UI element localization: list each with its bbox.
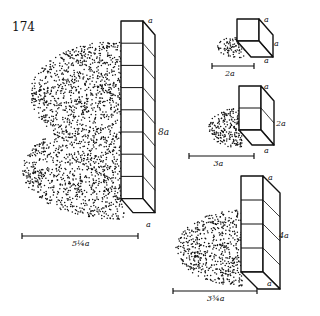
stipple-dot	[119, 92, 121, 94]
stipple-dot	[66, 64, 68, 66]
stipple-dot	[78, 129, 80, 131]
stipple-dot	[82, 193, 84, 195]
stipple-dot	[52, 160, 54, 162]
stipple-dot	[105, 211, 107, 213]
stipple-dot	[22, 170, 24, 172]
stipple-dot	[106, 188, 108, 190]
stipple-dot	[97, 75, 99, 77]
stipple-dot	[220, 48, 222, 50]
stipple-dot	[212, 240, 214, 242]
stipple-dot	[98, 183, 100, 185]
stipple-dot	[29, 177, 31, 179]
stipple-dot	[90, 69, 92, 71]
stipple-dot	[119, 42, 121, 44]
stipple-dot	[66, 147, 68, 149]
stipple-dot	[65, 189, 67, 191]
stipple-dot	[80, 179, 82, 181]
stipple-dot	[223, 246, 225, 248]
stipple-dot	[67, 118, 69, 120]
stipple-dot	[60, 164, 62, 166]
stipple-dot	[179, 240, 181, 242]
stipple-dot	[197, 255, 199, 256]
stipple-dot	[57, 112, 59, 114]
stipple-dot	[222, 121, 224, 123]
stipple-dot	[80, 62, 82, 64]
stipple-dot	[236, 224, 238, 226]
stipple-dot	[209, 215, 211, 217]
stipple-dot	[84, 146, 86, 148]
stipple-dot	[111, 98, 113, 100]
stipple-dot	[101, 60, 103, 62]
stipple-dot	[217, 47, 219, 49]
stipple-dot	[224, 50, 226, 52]
stipple-dot	[230, 122, 232, 124]
stipple-dot	[69, 122, 71, 124]
stipple-dot	[96, 56, 98, 58]
stipple-dot	[229, 137, 231, 139]
stipple-dot	[84, 46, 86, 48]
stipple-dot	[221, 232, 223, 234]
stipple-dot	[90, 55, 92, 57]
stipple-dot	[217, 114, 219, 116]
stipple-dot	[82, 64, 84, 66]
stipple-dot	[104, 101, 106, 103]
stipple-dot	[222, 228, 224, 230]
stipple-dot	[98, 209, 100, 211]
stipple-dot	[104, 137, 106, 139]
stipple-dot	[220, 134, 222, 136]
stipple-dot	[79, 147, 81, 149]
stipple-dot	[115, 74, 117, 76]
stipple-dot	[27, 172, 29, 174]
stipple-dot	[67, 121, 69, 123]
stipple-dot	[214, 254, 216, 256]
stipple-dot	[216, 216, 218, 218]
stipple-dot	[100, 130, 102, 132]
stipple-dot	[73, 70, 75, 72]
stipple-dot	[79, 207, 81, 209]
stipple-dot	[236, 248, 238, 250]
stipple-dot	[111, 69, 113, 71]
stipple-dot	[58, 127, 60, 128]
stipple-dot	[207, 278, 209, 280]
stipple-dot	[86, 101, 88, 103]
stipple-dot	[50, 100, 52, 102]
stipple-dot	[217, 223, 219, 225]
stipple-dot	[53, 187, 55, 189]
stipple-dot	[72, 168, 74, 170]
stipple-dot	[224, 251, 226, 253]
stipple-dot	[75, 178, 77, 180]
stipple-dot	[71, 80, 73, 82]
stipple-dot	[228, 258, 230, 260]
stipple-dot	[81, 191, 83, 193]
stipple-dot	[71, 162, 73, 164]
stipple-dot	[114, 95, 116, 97]
stipple-dot	[218, 249, 220, 251]
stipple-dot	[57, 193, 59, 195]
stipple-dot	[97, 211, 99, 213]
stipple-dot	[76, 122, 78, 124]
stipple-dot	[53, 162, 55, 164]
stipple-dot	[215, 214, 217, 216]
stipple-dot	[57, 132, 59, 134]
stipple-dot	[55, 150, 57, 152]
stipple-dot	[80, 102, 82, 104]
stipple-dot	[55, 117, 57, 119]
stipple-dot	[38, 176, 40, 178]
stipple-dot	[58, 76, 60, 78]
stipple-dot	[66, 139, 68, 141]
stipple-dot	[117, 59, 119, 61]
stipple-dot	[107, 56, 109, 58]
figure-medium: a2aa3a	[189, 82, 286, 168]
stipple-dot	[47, 81, 49, 83]
stipple-dot	[106, 142, 108, 144]
stipple-dot	[95, 206, 97, 208]
stipple-dot	[110, 130, 112, 132]
stipple-dot	[83, 152, 85, 154]
top-label: a	[148, 16, 153, 25]
stipple-dot	[116, 138, 118, 140]
stipple-dot	[198, 243, 200, 245]
stipple-dot	[108, 146, 110, 148]
stipple-dot	[38, 191, 40, 193]
stipple-dot	[80, 155, 82, 157]
stipple-dot	[68, 84, 70, 86]
